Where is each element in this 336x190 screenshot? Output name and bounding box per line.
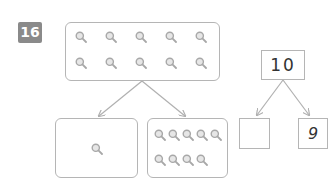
magnifying-glass-icon (165, 31, 177, 43)
part-left-picture-box (55, 118, 138, 178)
icon-grid-whole (75, 31, 207, 69)
magnifying-glass-icon (91, 143, 103, 155)
magnifying-glass-icon (182, 154, 194, 166)
magnifying-glass-icon (182, 129, 194, 141)
icon-grid-part-left (91, 143, 103, 155)
magnifying-glass-icon (135, 31, 147, 43)
number-bond-part-left-input[interactable] (239, 118, 270, 149)
magnifying-glass-icon (195, 31, 207, 43)
magnifying-glass-icon (210, 129, 222, 141)
magnifying-glass-icon (165, 57, 177, 69)
magnifying-glass-icon (75, 57, 87, 69)
magnifying-glass-icon (105, 57, 117, 69)
magnifying-glass-icon (196, 129, 208, 141)
whole-picture-box (65, 22, 220, 81)
magnifying-glass-icon (135, 57, 147, 69)
magnifying-glass-icon (196, 154, 208, 166)
magnifying-glass-icon (105, 31, 117, 43)
number-bond-whole: 10 (261, 50, 305, 80)
number-bond-part-right: 9 (298, 118, 328, 149)
magnifying-glass-icon (168, 129, 180, 141)
magnifying-glass-icon (195, 57, 207, 69)
icon-grid-part-right (154, 129, 222, 166)
magnifying-glass-icon (154, 129, 166, 141)
magnifying-glass-icon (168, 154, 180, 166)
part-right-picture-box (147, 118, 228, 178)
magnifying-glass-icon (154, 154, 166, 166)
magnifying-glass-icon (75, 31, 87, 43)
